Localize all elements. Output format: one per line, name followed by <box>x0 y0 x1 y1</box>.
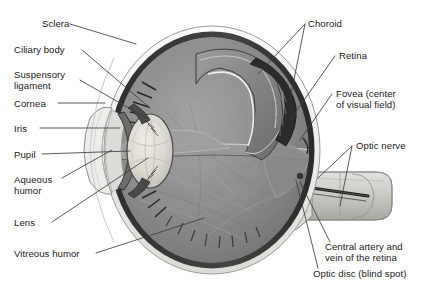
leader-sclera <box>70 24 136 44</box>
label-suspensory-line2: ligament <box>14 80 51 91</box>
label-ciliary-body: Ciliary body <box>14 44 65 55</box>
label-optic-disc: Optic disc (blind spot) <box>313 268 406 279</box>
label-sclera: Sclera <box>42 18 70 29</box>
label-vitreous-humor: Vitreous humor <box>14 248 80 259</box>
label-aqueous-line2: humor <box>14 185 41 196</box>
label-fovea-line1: Fovea (center <box>336 88 396 99</box>
label-central-artery-l2: vein of the retina <box>325 252 397 263</box>
label-aqueous-line1: Aqueous <box>14 174 52 185</box>
label-central-artery-l1: Central artery and <box>325 241 403 252</box>
eye-anatomy-figure: Sclera Ciliary body Suspensory ligament … <box>0 0 422 296</box>
label-lens: Lens <box>14 217 35 228</box>
label-optic-nerve: Optic nerve <box>356 140 406 151</box>
label-cornea: Cornea <box>14 98 46 109</box>
optic-disc-marker <box>297 173 303 179</box>
label-retina: Retina <box>339 50 367 61</box>
label-choroid: Choroid <box>308 18 342 29</box>
label-iris: Iris <box>14 123 27 134</box>
label-fovea-line2: of visual field) <box>336 99 395 110</box>
label-pupil: Pupil <box>14 149 36 160</box>
lens-shape <box>127 114 173 188</box>
label-suspensory-line1: Suspensory <box>14 69 65 80</box>
